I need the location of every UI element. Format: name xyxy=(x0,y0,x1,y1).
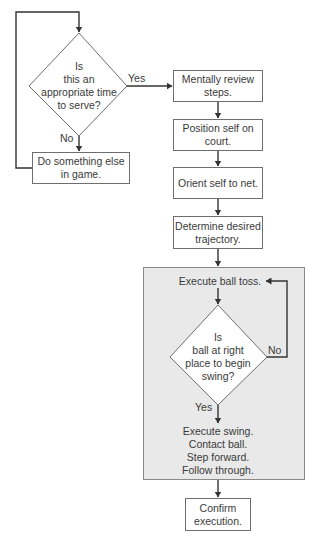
decision2-yes-label: Yes xyxy=(195,401,217,414)
decision1-yes-label: Yes xyxy=(128,72,150,85)
confirm-execution-box: Confirm execution. xyxy=(185,498,251,531)
step-box-determine-trajectory: Determine desired trajectory. xyxy=(173,216,263,249)
step-text: Orient self to net. xyxy=(178,177,258,190)
step-box-position-self: Position self on court. xyxy=(173,119,263,151)
step-text: Determine desired trajectory. xyxy=(174,220,262,246)
decision1-no-label: No xyxy=(60,132,76,145)
execute-ball-toss-text: Execute ball toss. xyxy=(178,275,262,288)
do-something-else-box: Do something else in game. xyxy=(32,152,130,184)
decision1-text: Is this an appropriate time to serve? xyxy=(32,60,126,112)
step-box-orient-self: Orient self to net. xyxy=(173,167,263,199)
step-text: Position self on court. xyxy=(174,122,262,148)
step-text: Mentally review steps. xyxy=(174,73,262,99)
decision2-no-label: No xyxy=(268,344,286,357)
do-something-else-text: Do something else in game. xyxy=(33,155,129,181)
step-box-mentally-review: Mentally review steps. xyxy=(173,70,263,102)
swing-steps-text: Execute swing. Contact ball. Step forwar… xyxy=(168,425,268,477)
decision2-text: Is ball at right place to begin swing? xyxy=(174,331,262,383)
confirm-execution-text: Confirm execution. xyxy=(186,502,250,528)
